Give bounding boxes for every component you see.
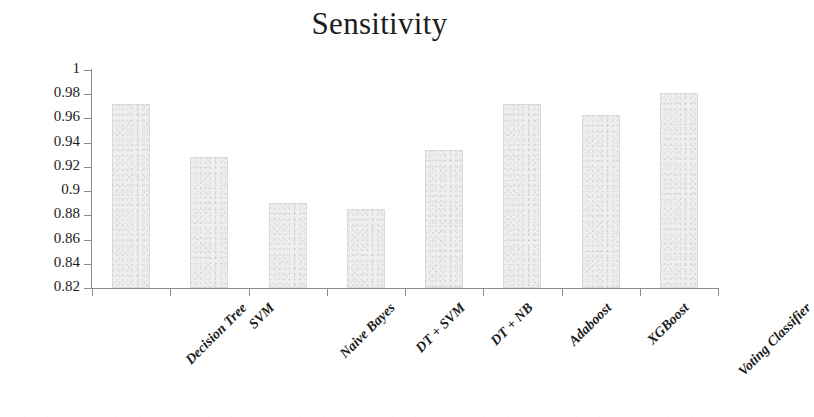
y-axis-tick-label: 1 xyxy=(20,60,80,77)
x-axis-category-label: Decision Tree xyxy=(183,300,251,368)
bar xyxy=(503,104,541,288)
x-axis-tick-mark xyxy=(92,288,93,296)
x-axis-category-label: Naive Bayes xyxy=(336,300,398,362)
x-axis-category-labels: Decision TreeSVMNaive BayesDT + SVMDT + … xyxy=(0,300,759,417)
x-axis-category-label: DT + SVM xyxy=(412,300,468,356)
y-axis-tick-mark xyxy=(84,288,92,289)
x-axis-tick-mark xyxy=(405,288,406,296)
y-axis-tick-label: 0.84 xyxy=(20,254,80,271)
chart-title: Sensitivity xyxy=(0,6,759,42)
x-axis-category-label: Adaboost xyxy=(566,300,615,349)
y-axis-tick-label: 0.88 xyxy=(20,205,80,222)
y-axis-tick-mark xyxy=(84,118,92,119)
x-axis-tick-mark xyxy=(640,288,641,296)
x-axis-tick-mark xyxy=(170,288,171,296)
x-axis-tick-mark xyxy=(327,288,328,296)
y-axis-tick-mark xyxy=(84,167,92,168)
x-axis-tick-mark xyxy=(483,288,484,296)
x-axis-tick-mark xyxy=(718,288,719,296)
x-axis-category-label: XGBoost xyxy=(644,300,692,348)
y-axis-tick-mark xyxy=(84,70,92,71)
bar xyxy=(190,157,228,288)
y-axis-tick-mark xyxy=(84,94,92,95)
bar xyxy=(269,203,307,288)
y-axis-tick-label: 0.82 xyxy=(20,278,80,295)
y-axis-tick-label: 0.94 xyxy=(20,133,80,150)
y-axis-tick-label: 0.9 xyxy=(20,181,80,198)
y-axis-tick-mark xyxy=(84,264,92,265)
y-axis-tick-label: 0.92 xyxy=(20,157,80,174)
y-axis-tick-mark xyxy=(84,191,92,192)
bar xyxy=(425,150,463,288)
y-axis-tick-label: 0.98 xyxy=(20,84,80,101)
bar xyxy=(347,209,385,288)
y-axis-tick-label: 0.96 xyxy=(20,108,80,125)
bar xyxy=(660,93,698,288)
x-axis-category-label: SVM xyxy=(246,300,278,332)
x-axis-category-label: Voting Classifier xyxy=(735,300,814,379)
x-axis-category-label: DT + NB xyxy=(488,300,537,349)
bar xyxy=(582,115,620,288)
x-axis-tick-mark xyxy=(562,288,563,296)
bar xyxy=(112,104,150,288)
y-axis-tick-label: 0.86 xyxy=(20,230,80,247)
plot-area xyxy=(92,70,718,288)
y-axis-tick-mark xyxy=(84,215,92,216)
y-axis-tick-mark xyxy=(84,240,92,241)
y-axis-tick-mark xyxy=(84,143,92,144)
x-axis-tick-mark xyxy=(249,288,250,296)
